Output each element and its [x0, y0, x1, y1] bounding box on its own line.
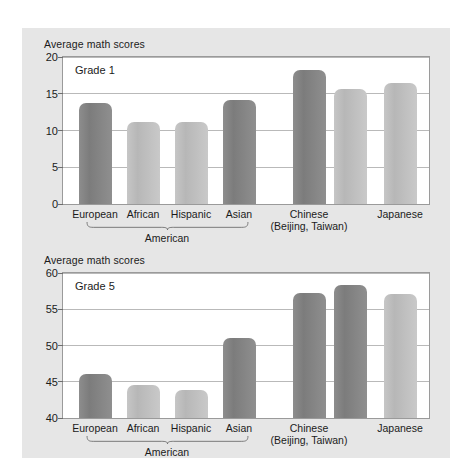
x-axis-label: Chinese(Beijing, Taiwan) [271, 422, 348, 446]
chart-panel-grade1: Average math scores Grade 1 05101520 Eur… [22, 34, 450, 246]
x-axis-sublabel-text: (Beijing, Taiwan) [271, 434, 348, 446]
figure-panel: Average math scores Grade 1 05101520 Eur… [22, 28, 450, 458]
x-axis-label-text: African [127, 208, 160, 220]
curly-brace-icon [76, 436, 259, 444]
y-axis-tick-label: 40 [24, 412, 58, 424]
y-axis-tick-mark [58, 204, 63, 205]
bar [79, 103, 112, 204]
bar [384, 294, 417, 418]
group-label-american: American [145, 446, 189, 458]
bar [175, 390, 208, 418]
y-axis-tick-label: 0 [24, 198, 58, 210]
gridline [63, 57, 429, 58]
x-axis-label-text: Japanese [377, 208, 423, 220]
x-axis-label-text: European [72, 422, 118, 434]
x-axis-label-text: European [72, 208, 118, 220]
y-axis-tick-label: 10 [24, 125, 58, 137]
x-axis-label: Japanese [377, 208, 423, 220]
bar [334, 285, 367, 418]
bar [384, 83, 417, 204]
x-axis-label-text: Chinese [290, 422, 329, 434]
y-axis-tick-mark [58, 309, 63, 310]
chart-panel-grade5: Average math scores Grade 5 4045505560 E… [22, 250, 450, 458]
x-axis-label-text: Japanese [377, 422, 423, 434]
x-axis-label: Hispanic [171, 208, 211, 220]
bar [175, 122, 208, 204]
y-axis-tick-mark [58, 273, 63, 274]
bar [293, 70, 326, 205]
gridline [63, 93, 429, 94]
curly-brace-icon [76, 222, 259, 230]
x-axis-label: Japanese [377, 422, 423, 434]
bar [223, 100, 256, 204]
x-axis-label: Asian [226, 422, 252, 434]
panel-label-grade5: Grade 5 [75, 280, 115, 292]
plot-area-grade5: Grade 5 4045505560 [62, 272, 430, 419]
gridline [63, 273, 429, 274]
panel-label-grade1: Grade 1 [75, 64, 115, 76]
x-axis-label-text: African [127, 422, 160, 434]
axis-title-grade5: Average math scores [44, 254, 145, 266]
y-axis-tick-label: 15 [24, 88, 58, 100]
x-axis-label: Chinese(Beijing, Taiwan) [271, 208, 348, 232]
bar [334, 89, 367, 204]
y-axis-tick-label: 20 [24, 51, 58, 63]
axis-title-grade1: Average math scores [44, 38, 145, 50]
y-axis-tick-mark [58, 345, 63, 346]
x-axis-label: African [127, 422, 160, 434]
x-axis-label-text: Chinese [290, 208, 329, 220]
gridline [63, 309, 429, 310]
y-axis-tick-mark [58, 57, 63, 58]
x-axis-label-text: Hispanic [171, 422, 211, 434]
y-axis-tick-mark [58, 167, 63, 168]
y-axis-tick-label: 60 [24, 267, 58, 279]
x-axis-label-text: Asian [226, 208, 252, 220]
bar [127, 122, 160, 204]
x-axis-label-text: Hispanic [171, 208, 211, 220]
y-axis-tick-label: 5 [24, 161, 58, 173]
group-label-american: American [145, 232, 189, 244]
x-axis-label: European [72, 422, 118, 434]
y-axis-tick-mark [58, 93, 63, 94]
x-axis-label-text: Asian [226, 422, 252, 434]
bar [79, 374, 112, 418]
x-axis-label: Asian [226, 208, 252, 220]
y-axis-tick-mark [58, 381, 63, 382]
plot-area-grade1: Grade 1 05101520 [62, 56, 430, 205]
x-axis-label: Hispanic [171, 422, 211, 434]
y-axis-tick-mark [58, 130, 63, 131]
bar [127, 385, 160, 418]
y-axis-tick-label: 50 [24, 340, 58, 352]
y-axis-tick-mark [58, 418, 63, 419]
y-axis-tick-label: 45 [24, 376, 58, 388]
x-axis-label: African [127, 208, 160, 220]
bar [223, 338, 256, 418]
x-axis-label: European [72, 208, 118, 220]
x-axis-sublabel-text: (Beijing, Taiwan) [271, 220, 348, 232]
bar [293, 293, 326, 418]
y-axis-tick-label: 55 [24, 303, 58, 315]
